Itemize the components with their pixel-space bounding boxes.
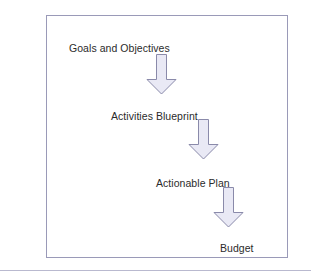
arrow-activities-to-plan: [188, 119, 219, 160]
arrow-plan-to-budget: [213, 187, 244, 228]
flow-step-label-activities-blueprint: Activities Blueprint: [111, 110, 198, 123]
flow-step-label-budget: Budget: [220, 242, 254, 255]
arrow-goals-to-activities: [146, 54, 177, 95]
flowchart: Goals and Objectives Activities Blueprin…: [47, 16, 287, 257]
diagram-frame: Goals and Objectives Activities Blueprin…: [46, 15, 288, 258]
page-canvas: Goals and Objectives Activities Blueprin…: [0, 0, 311, 278]
page-divider: [0, 270, 311, 271]
